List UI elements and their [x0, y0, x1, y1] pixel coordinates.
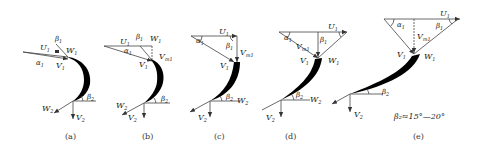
svg-text:Vm1: Vm1 [417, 32, 431, 42]
svg-text:β2: β2 [160, 95, 168, 104]
velocity-triangle-diagram: U1 β1 W1 α1 V1 β2 W2 V2 (a) U1 β1 W1 α1 … [0, 0, 480, 148]
svg-text:V2: V2 [128, 113, 137, 123]
svg-text:U1: U1 [40, 43, 50, 53]
svg-text:α1: α1 [36, 59, 44, 68]
panel-b: U1 β1 W1 α1 Vm1 V1 β2 W2 V2 (b) [104, 33, 173, 141]
caption-e: (e) [413, 132, 424, 141]
svg-text:U1: U1 [328, 22, 338, 32]
svg-text:Vm1: Vm1 [240, 48, 254, 58]
svg-text:α1: α1 [397, 21, 405, 30]
caption-c: (c) [214, 132, 225, 141]
svg-text:W1: W1 [328, 56, 339, 66]
svg-text:α1: α1 [196, 37, 204, 46]
svg-text:V2: V2 [198, 113, 207, 123]
caption-d: (d) [285, 132, 296, 141]
w2-vector [190, 101, 210, 112]
svg-text:W2: W2 [116, 101, 127, 111]
svg-text:β1: β1 [435, 22, 443, 31]
svg-text:V2: V2 [266, 113, 275, 123]
svg-text:V1: V1 [139, 60, 148, 70]
panel-a: U1 β1 W1 α1 V1 β2 W2 V2 (a) [23, 35, 96, 141]
svg-text:β1: β1 [319, 36, 327, 45]
svg-text:W1: W1 [66, 46, 77, 56]
svg-text:β2: β2 [295, 91, 303, 100]
svg-text:Vm1: Vm1 [296, 42, 310, 52]
svg-text:β2: β2 [381, 88, 389, 97]
svg-text:W2: W2 [42, 104, 53, 114]
svg-text:V2: V2 [76, 113, 85, 123]
svg-text:Vm1: Vm1 [159, 52, 173, 62]
caption-a: (a) [65, 132, 76, 141]
svg-text:V2: V2 [354, 110, 363, 120]
w2-vector [332, 94, 350, 104]
caption-b: (b) [142, 132, 153, 141]
svg-text:α1: α1 [284, 34, 292, 43]
beta2-range-note: β₂≈15°—20° [393, 112, 445, 121]
panel-e: U1 α1 β1 Vm1 V1 W1 β2 V2 β₂≈15°—20° (e) [332, 9, 460, 141]
svg-text:α1: α1 [124, 47, 132, 56]
panel-d: U1 α1 β1 Vm1 V1 W1 β2 W2 V2 (d) [262, 22, 347, 141]
svg-text:W1: W1 [150, 34, 161, 44]
svg-text:V1: V1 [397, 50, 406, 60]
w2-vector [54, 101, 73, 113]
svg-text:V1: V1 [300, 56, 309, 66]
svg-text:β1: β1 [135, 33, 143, 42]
svg-text:U1: U1 [219, 27, 229, 37]
svg-text:W1: W1 [424, 52, 435, 62]
svg-text:β1: β1 [225, 42, 233, 51]
svg-text:β2: β2 [225, 93, 233, 102]
svg-text:U1: U1 [120, 37, 130, 47]
v1-vector [23, 52, 68, 59]
svg-text:W2: W2 [310, 95, 321, 105]
svg-text:β1: β1 [54, 35, 62, 44]
beta1-mark [55, 50, 59, 53]
svg-text:U1: U1 [440, 9, 450, 19]
panel-c: U1 α1 β1 Vm1 V1 β2 W2 V2 (c) [190, 27, 254, 141]
svg-text:V1: V1 [220, 61, 229, 71]
svg-text:β2: β2 [86, 93, 94, 102]
w2-extension [262, 100, 281, 110]
svg-text:W2: W2 [237, 96, 248, 106]
svg-text:V1: V1 [56, 61, 65, 71]
